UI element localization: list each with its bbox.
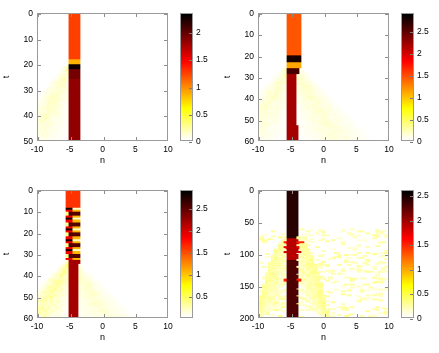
panel-bottom-left-ytick: [164, 212, 167, 213]
panel-top-left-xtick-label: 5: [133, 144, 138, 154]
panel-top-left-colorbar-label: 0.5: [196, 109, 208, 119]
panel-top-left-heatmap: [38, 14, 167, 140]
panel-bottom-left-colorbar-label: 1.5: [196, 247, 208, 257]
panel-top-right-colorbar-label: 1: [417, 92, 422, 102]
panel-bottom-right-colorbar-label: 2.5: [417, 190, 429, 200]
panel-top-right-colorbar-tick: [410, 76, 413, 77]
panel-top-right-ylabel: t: [222, 76, 232, 79]
panel-top-right-colorbar-gradient: [402, 14, 413, 140]
panel-bottom-left-ytick: [164, 234, 167, 235]
panel-top-right-xtick: [259, 137, 260, 140]
panel-bottom-right-xtick: [357, 191, 358, 194]
panel-bottom-left-heatmap: [38, 191, 167, 317]
panel-bottom-left-colorbar-tick: [189, 275, 192, 276]
panel-top-left-ytick-label: 40: [5, 110, 33, 120]
panel-bottom-left-xtick: [38, 191, 39, 194]
panel-bottom-right-ylabel: t: [222, 253, 232, 256]
panel-top-left-ytick-label: 20: [5, 59, 33, 69]
panel-top-left-ytick: [38, 40, 41, 41]
panel-top-left-colorbar-tick: [189, 115, 192, 116]
panel-bottom-right-colorbar-label: 2: [417, 215, 422, 225]
panel-bottom-right-ytick: [385, 255, 388, 256]
panel-top-right-ytick: [385, 14, 388, 15]
panel-top-right-colorbar-tick: [410, 98, 413, 99]
panel-top-left-xtick-label: -10: [31, 144, 43, 154]
panel-bottom-left-colorbar: [180, 190, 193, 318]
panel-bottom-right-xtick: [292, 314, 293, 317]
panel-bottom-left-colorbar-label: 0.5: [196, 291, 208, 301]
panel-bottom-right-xtick: [357, 314, 358, 317]
panel-bottom-left-ytick: [164, 276, 167, 277]
panel-top-left-ytick: [164, 65, 167, 66]
panel-top-left-colorbar: [180, 13, 193, 141]
panel-top-right-ytick: [259, 121, 262, 122]
panel-bottom-left-xtick: [38, 314, 39, 317]
panel-top-right-ytick-label: 60: [226, 136, 254, 146]
panel-bottom-right-xtick: [259, 314, 260, 317]
panel-bottom-left-ylabel: t: [1, 253, 11, 256]
panel-bottom-right-xtick: [325, 314, 326, 317]
panel-bottom-right-ytick-label: 50: [226, 217, 254, 227]
panel-bottom-left-ytick: [164, 298, 167, 299]
panel-top-right-colorbar-tick: [410, 142, 413, 143]
panel-bottom-left-ytick: [164, 191, 167, 192]
panel-top-right-colorbar-tick: [410, 120, 413, 121]
panel-top-left-colorbar-tick: [189, 88, 192, 89]
panel-top-right-xtick: [292, 137, 293, 140]
panel-top-right-ytick-label: 0: [226, 8, 254, 18]
panel-top-right-xtick: [292, 14, 293, 17]
panel-top-right-xtick: [357, 137, 358, 140]
panel-bottom-right-ytick-label: 0: [226, 185, 254, 195]
panel-bottom-right-colorbar-tick: [410, 245, 413, 246]
panel-top-right-ytick: [385, 57, 388, 58]
panel-top-right-ytick: [259, 35, 262, 36]
panel-bottom-left-xtick: [136, 314, 137, 317]
panel-top-left-ytick: [164, 14, 167, 15]
panel-bottom-right-xtick: [259, 191, 260, 194]
panel-top-right-xtick: [325, 14, 326, 17]
panel-bottom-left-colorbar-tick: [189, 297, 192, 298]
panel-top-right-xtick-label: 5: [354, 144, 359, 154]
panel-bottom-left-ytick: [38, 212, 41, 213]
panel-top-left-colorbar-label: 0: [196, 136, 201, 146]
panel-bottom-left-xtick-label: -10: [31, 321, 43, 331]
panel-top-left-colorbar-label: 1: [196, 82, 201, 92]
panel-bottom-left-colorbar-gradient: [181, 191, 192, 317]
panel-top-right-colorbar-tick: [410, 32, 413, 33]
panel-bottom-right-colorbar-tick: [410, 270, 413, 271]
panel-bottom-right-axes: [258, 190, 389, 318]
panel-top-right-ytick-label: 50: [226, 115, 254, 125]
panel-top-left-ytick: [164, 116, 167, 117]
panel-bottom-right-colorbar: [401, 190, 414, 318]
panel-top-right-colorbar-label: 1.5: [417, 70, 429, 80]
panel-bottom-left-colorbar-label: 2.5: [196, 203, 208, 213]
panel-top-right-ytick: [259, 99, 262, 100]
panel-bottom-right-xtick-label: 5: [354, 321, 359, 331]
panel-top-right-colorbar: [401, 13, 414, 141]
panel-top-left-ytick: [38, 116, 41, 117]
panel-top-left-ytick: [38, 91, 41, 92]
panel-top-left-colorbar-label: 1.5: [196, 54, 208, 64]
panel-bottom-left-xlabel: n: [100, 332, 105, 342]
panel-bottom-right-heatmap: [259, 191, 388, 317]
panel-top-right-ytick: [385, 78, 388, 79]
panel-bottom-left-colorbar-tick: [189, 209, 192, 210]
panel-bottom-right-xtick-label: 10: [384, 321, 393, 331]
panel-bottom-left-ytick-label: 40: [5, 270, 33, 280]
panel-bottom-right-colorbar-label: 0: [417, 313, 422, 323]
panel-bottom-left-xtick: [104, 191, 105, 194]
panel-bottom-left-xtick: [136, 191, 137, 194]
panel-bottom-right-colorbar-tick: [410, 196, 413, 197]
panel-bottom-right-xtick-label: -5: [287, 321, 295, 331]
panel-bottom-right-xtick-label: -10: [252, 321, 264, 331]
panel-top-right-colorbar-tick: [410, 54, 413, 55]
panel-bottom-left-ytick: [164, 255, 167, 256]
panel-top-right-colorbar-label: 0: [417, 136, 422, 146]
panel-top-left-xtick: [136, 137, 137, 140]
panel-top-right-xtick-label: 0: [321, 144, 326, 154]
panel-top-right-xtick-label: 10: [384, 144, 393, 154]
panel-top-right-heatmap: [259, 14, 388, 140]
panel-bottom-left-xtick: [71, 191, 72, 194]
panel-bottom-left-colorbar-tick: [189, 253, 192, 254]
panel-top-right-ytick: [259, 57, 262, 58]
